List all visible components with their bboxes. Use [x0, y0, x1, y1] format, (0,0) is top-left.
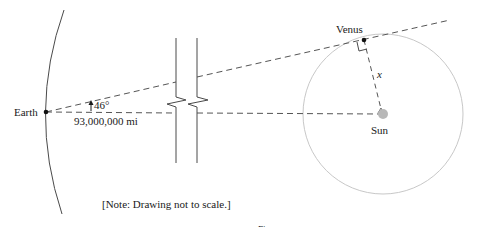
angle-label: 46° — [94, 99, 109, 111]
break-symbol-left — [167, 38, 186, 163]
venus-label: Venus — [336, 23, 363, 35]
venus-orbit-diagram: Earth Venus Sun 46° 93,000,000 mi x [Not… — [0, 0, 477, 227]
break-symbol-right — [188, 38, 208, 163]
distance-label: 93,000,000 mi — [74, 115, 138, 127]
sun-point — [378, 109, 388, 119]
earth-sun-line-left — [46, 112, 176, 113]
note-text: [Note: Drawing not to scale.] — [102, 198, 231, 210]
earth-venus-line-left — [46, 82, 176, 112]
earth-sun-line-right — [197, 113, 380, 114]
sun-label: Sun — [371, 124, 389, 136]
figure-caption-partial: Figure — [258, 224, 282, 227]
x-variable-label: x — [376, 68, 382, 80]
right-angle-marker — [357, 42, 367, 51]
earth-venus-line-right — [197, 20, 450, 77]
earth-point — [44, 110, 49, 115]
venus-point — [362, 38, 367, 43]
earth-label: Earth — [14, 106, 38, 118]
